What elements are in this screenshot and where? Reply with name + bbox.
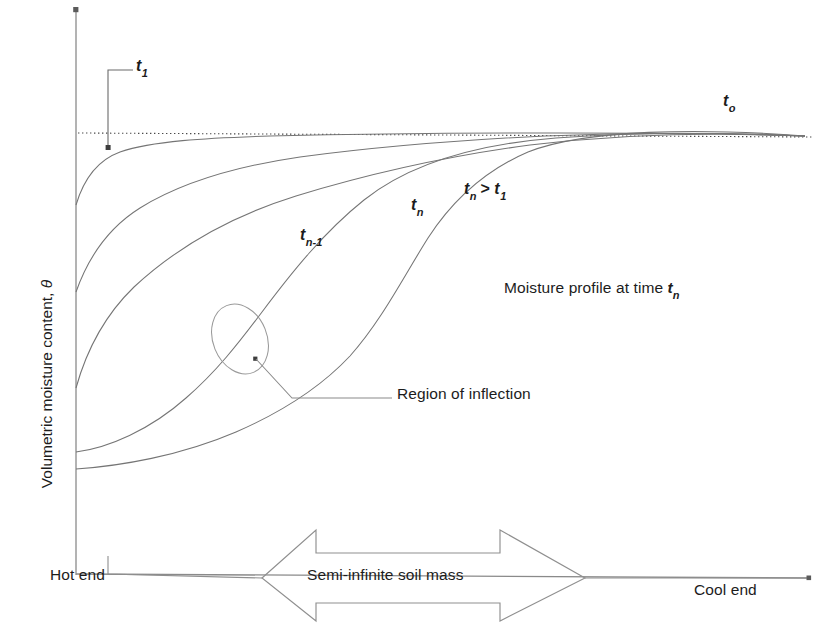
label-cool-end: Cool end — [694, 581, 757, 599]
inflection-leader-line — [256, 359, 392, 398]
curve-tn-1 — [76, 134, 805, 452]
curve-tn — [76, 131, 805, 469]
label-tn-minus-1: tn-1 — [300, 226, 322, 246]
label-region-of-inflection: Region of inflection — [397, 385, 531, 403]
axes-group — [73, 7, 811, 580]
label-semi-infinite-soil-mass: Semi-infinite soil mass — [307, 566, 463, 584]
label-moisture-profile-caption: Moisture profile at time tn — [504, 279, 680, 299]
curve-t2 — [76, 133, 805, 292]
label-hot-end: Hot end — [50, 566, 105, 584]
moisture-profile-diagram — [0, 0, 817, 627]
curve-t1 — [76, 133, 805, 205]
inflection-ellipse — [201, 296, 278, 383]
label-t0: to — [723, 92, 735, 112]
label-tn-greater-t1: tn > t1 — [464, 180, 506, 200]
t1-leader-endpoint-dot — [106, 145, 111, 150]
y-axis-title-text: Volumetric moisture content, — [38, 288, 55, 488]
theta-symbol: θ — [38, 280, 55, 288]
label-tn: tn — [411, 196, 423, 216]
label-t1: t1 — [136, 57, 147, 77]
t1-leader-line — [108, 70, 133, 147]
figure-canvas: Volumetric moisture content, θ t1 to tn-… — [0, 0, 817, 627]
y-axis-title: Volumetric moisture content, θ — [38, 239, 56, 529]
x-axis-arrow-cap — [807, 576, 812, 581]
curve-t3 — [76, 134, 805, 388]
y-axis-arrow-cap — [73, 7, 78, 12]
inflection-callout-group — [201, 296, 392, 398]
t1-leader-group — [106, 70, 133, 150]
curve-family — [76, 131, 805, 469]
